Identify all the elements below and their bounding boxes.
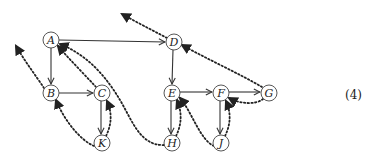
svg-text:E: E bbox=[167, 87, 176, 100]
svg-text:K: K bbox=[97, 137, 107, 150]
svg-text:B: B bbox=[46, 87, 55, 100]
graph-diagram: A B C K D E F G H J bbox=[0, 0, 379, 158]
node-B: B bbox=[43, 85, 59, 101]
node-K: K bbox=[94, 135, 110, 151]
node-H: H bbox=[164, 135, 180, 151]
dotted-D-offscreen bbox=[122, 14, 167, 38]
dotted-K-C bbox=[106, 101, 111, 136]
dotted-K-B bbox=[56, 100, 94, 146]
dotted-H-A bbox=[60, 44, 164, 145]
svg-text:A: A bbox=[46, 34, 55, 47]
node-J: J bbox=[213, 135, 229, 151]
node-G: G bbox=[261, 85, 277, 101]
svg-text:J: J bbox=[217, 137, 224, 150]
dotted-G-D bbox=[182, 45, 262, 87]
dotted-H-E bbox=[176, 100, 181, 136]
solid-edges bbox=[51, 40, 260, 134]
node-A: A bbox=[43, 32, 59, 48]
dotted-J-E bbox=[180, 98, 214, 146]
node-D: D bbox=[166, 34, 182, 50]
dotted-G-F bbox=[229, 98, 263, 103]
node-E: E bbox=[164, 85, 180, 101]
edge-D-E bbox=[172, 50, 173, 84]
edge-A-D bbox=[59, 40, 165, 42]
node-C: C bbox=[94, 85, 110, 101]
dotted-J-F bbox=[225, 101, 230, 136]
svg-text:C: C bbox=[98, 87, 107, 100]
svg-text:H: H bbox=[166, 137, 177, 150]
svg-text:D: D bbox=[169, 36, 179, 49]
svg-text:F: F bbox=[216, 87, 225, 100]
node-F: F bbox=[213, 85, 229, 101]
equation-number: (4) bbox=[345, 88, 362, 102]
svg-text:G: G bbox=[265, 87, 274, 100]
dotted-A-offscreen bbox=[16, 46, 44, 88]
